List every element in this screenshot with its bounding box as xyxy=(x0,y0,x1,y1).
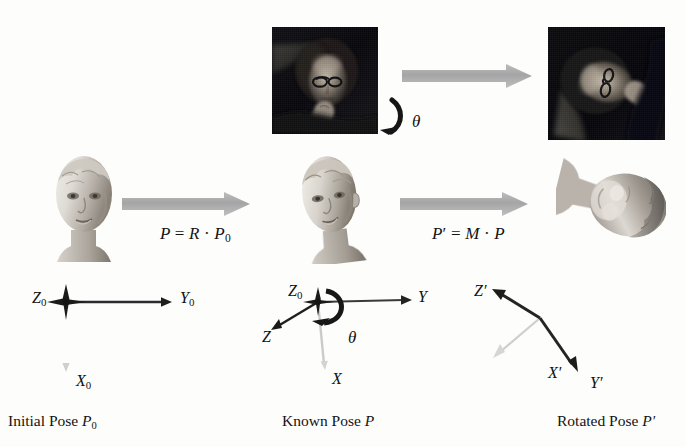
axis-label-y-prime: Y′ xyxy=(590,374,602,392)
theta-label-axes: θ xyxy=(348,328,356,348)
axis-label-y0-initial: Y0 xyxy=(180,289,194,308)
top-transform-arrow xyxy=(402,64,532,88)
second-transform-arrow xyxy=(400,192,528,216)
axis-label-x-known: X xyxy=(332,370,342,388)
caption-rotated-pose: Rotated Pose P′ xyxy=(557,412,655,430)
equation-one: P = R · P0 xyxy=(160,224,231,245)
theta-label-top: θ xyxy=(412,112,420,132)
axis-label-x-prime: X′ xyxy=(548,364,561,382)
equation-one-text: P = R · P0 xyxy=(160,224,231,243)
axis-label-z-prime: Z′ xyxy=(474,282,486,300)
first-transform-arrow xyxy=(122,192,250,216)
rotated-head-model xyxy=(556,150,666,270)
photo-grain xyxy=(548,27,665,140)
axis-label-z-known: Z xyxy=(262,328,271,346)
rotated-pose-axes xyxy=(468,278,668,402)
caption-initial-pose: Initial Pose P0 xyxy=(8,412,97,431)
axis-label-x0-initial: X0 xyxy=(76,372,91,391)
axis-label-z0-initial: Z0 xyxy=(32,289,46,308)
initial-head-model xyxy=(38,152,130,264)
caption-known-pose: Known Pose P xyxy=(282,412,374,430)
known-head-model xyxy=(286,152,378,264)
axis-label-y-known: Y xyxy=(418,288,427,306)
theta-rotation-arrow-icon xyxy=(358,96,418,148)
equation-two-text: P′ = M · P xyxy=(432,224,505,243)
axis-label-z0-known: Z0 xyxy=(288,282,302,301)
equation-two: P′ = M · P xyxy=(432,224,505,244)
rotated-face-photo xyxy=(548,27,665,140)
pose-transformation-figure: θ xyxy=(0,0,686,447)
